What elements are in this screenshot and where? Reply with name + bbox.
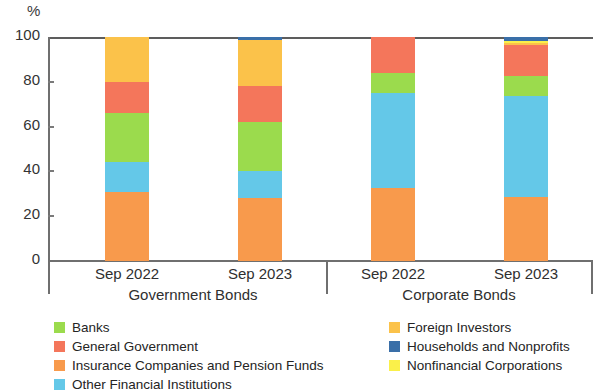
legend-column-left: BanksGeneral GovernmentInsurance Compani… <box>54 318 389 390</box>
legend-swatch-icon <box>54 341 65 352</box>
bar-segment[interactable] <box>105 192 149 261</box>
bar-segment[interactable] <box>105 82 149 113</box>
bar-segment[interactable] <box>371 73 415 93</box>
legend-label: Banks <box>72 320 110 335</box>
legend-column-right: Foreign InvestorsHouseholds and Nonprofi… <box>389 318 594 390</box>
legend-item[interactable]: Households and Nonprofits <box>389 337 594 355</box>
bar-stack[interactable] <box>504 37 548 261</box>
legend-label: Insurance Companies and Pension Funds <box>72 358 323 373</box>
legend-label: Other Financial Institutions <box>72 377 232 390</box>
legend-label: Foreign Investors <box>407 320 511 335</box>
chart-legend: BanksGeneral GovernmentInsurance Compani… <box>54 318 594 390</box>
legend-swatch-icon <box>389 341 400 352</box>
legend-label: Households and Nonprofits <box>407 339 570 354</box>
y-axis-tick-label: 80 <box>0 71 40 88</box>
y-axis-tick-label: 40 <box>0 160 40 177</box>
legend-item[interactable]: Other Financial Institutions <box>54 375 389 390</box>
legend-item[interactable]: Banks <box>54 318 389 336</box>
legend-label: General Government <box>72 339 198 354</box>
legend-item[interactable]: Nonfinancial Corporations <box>389 356 594 374</box>
bar-segment[interactable] <box>504 76 548 96</box>
legend-swatch-icon <box>54 379 65 390</box>
y-axis-tick-label: 60 <box>0 116 40 133</box>
stacked-bar-chart: % 020406080100 Sep 2022Sep 2023Sep 2022S… <box>0 0 603 390</box>
legend-swatch-icon <box>54 360 65 371</box>
legend-swatch-icon <box>54 322 65 333</box>
x-axis-category-label: Sep 2023 <box>466 265 586 282</box>
bar-segment[interactable] <box>238 171 282 198</box>
legend-swatch-icon <box>389 322 400 333</box>
y-axis-tick-label: 0 <box>0 250 40 267</box>
bar-stack[interactable] <box>371 37 415 261</box>
group-separator <box>591 261 593 294</box>
legend-swatch-icon <box>389 360 400 371</box>
bar-segment[interactable] <box>504 96 548 197</box>
legend-label: Nonfinancial Corporations <box>407 358 562 373</box>
bar-stack[interactable] <box>238 37 282 261</box>
legend-item[interactable]: Foreign Investors <box>389 318 594 336</box>
x-axis-category-label: Sep 2022 <box>333 265 453 282</box>
bar-stack[interactable] <box>105 37 149 261</box>
y-axis-tick-label: 100 <box>0 26 40 43</box>
bar-segment[interactable] <box>371 93 415 188</box>
x-axis-category-label: Sep 2023 <box>200 265 320 282</box>
group-separator <box>326 261 328 294</box>
group-separator <box>48 261 50 294</box>
bar-segment[interactable] <box>371 37 415 73</box>
bar-segment[interactable] <box>105 162 149 191</box>
bar-segment[interactable] <box>504 45 548 76</box>
bar-segment[interactable] <box>371 188 415 261</box>
bar-segment[interactable] <box>238 122 282 171</box>
bar-segment[interactable] <box>238 40 282 86</box>
legend-item[interactable]: General Government <box>54 337 389 355</box>
y-axis-tick-label: 20 <box>0 205 40 222</box>
bar-segment[interactable] <box>105 37 149 82</box>
bar-segment[interactable] <box>238 198 282 261</box>
y-axis-unit-label: % <box>27 2 41 19</box>
legend-item[interactable]: Insurance Companies and Pension Funds <box>54 356 389 374</box>
plot-area <box>48 37 593 261</box>
x-axis-category-label: Sep 2022 <box>67 265 187 282</box>
bar-segment[interactable] <box>238 86 282 122</box>
x-axis-group-label: Corporate Bonds <box>334 286 584 303</box>
x-axis-group-label: Government Bonds <box>68 286 318 303</box>
bar-segment[interactable] <box>504 197 548 261</box>
bar-segment[interactable] <box>105 113 149 162</box>
